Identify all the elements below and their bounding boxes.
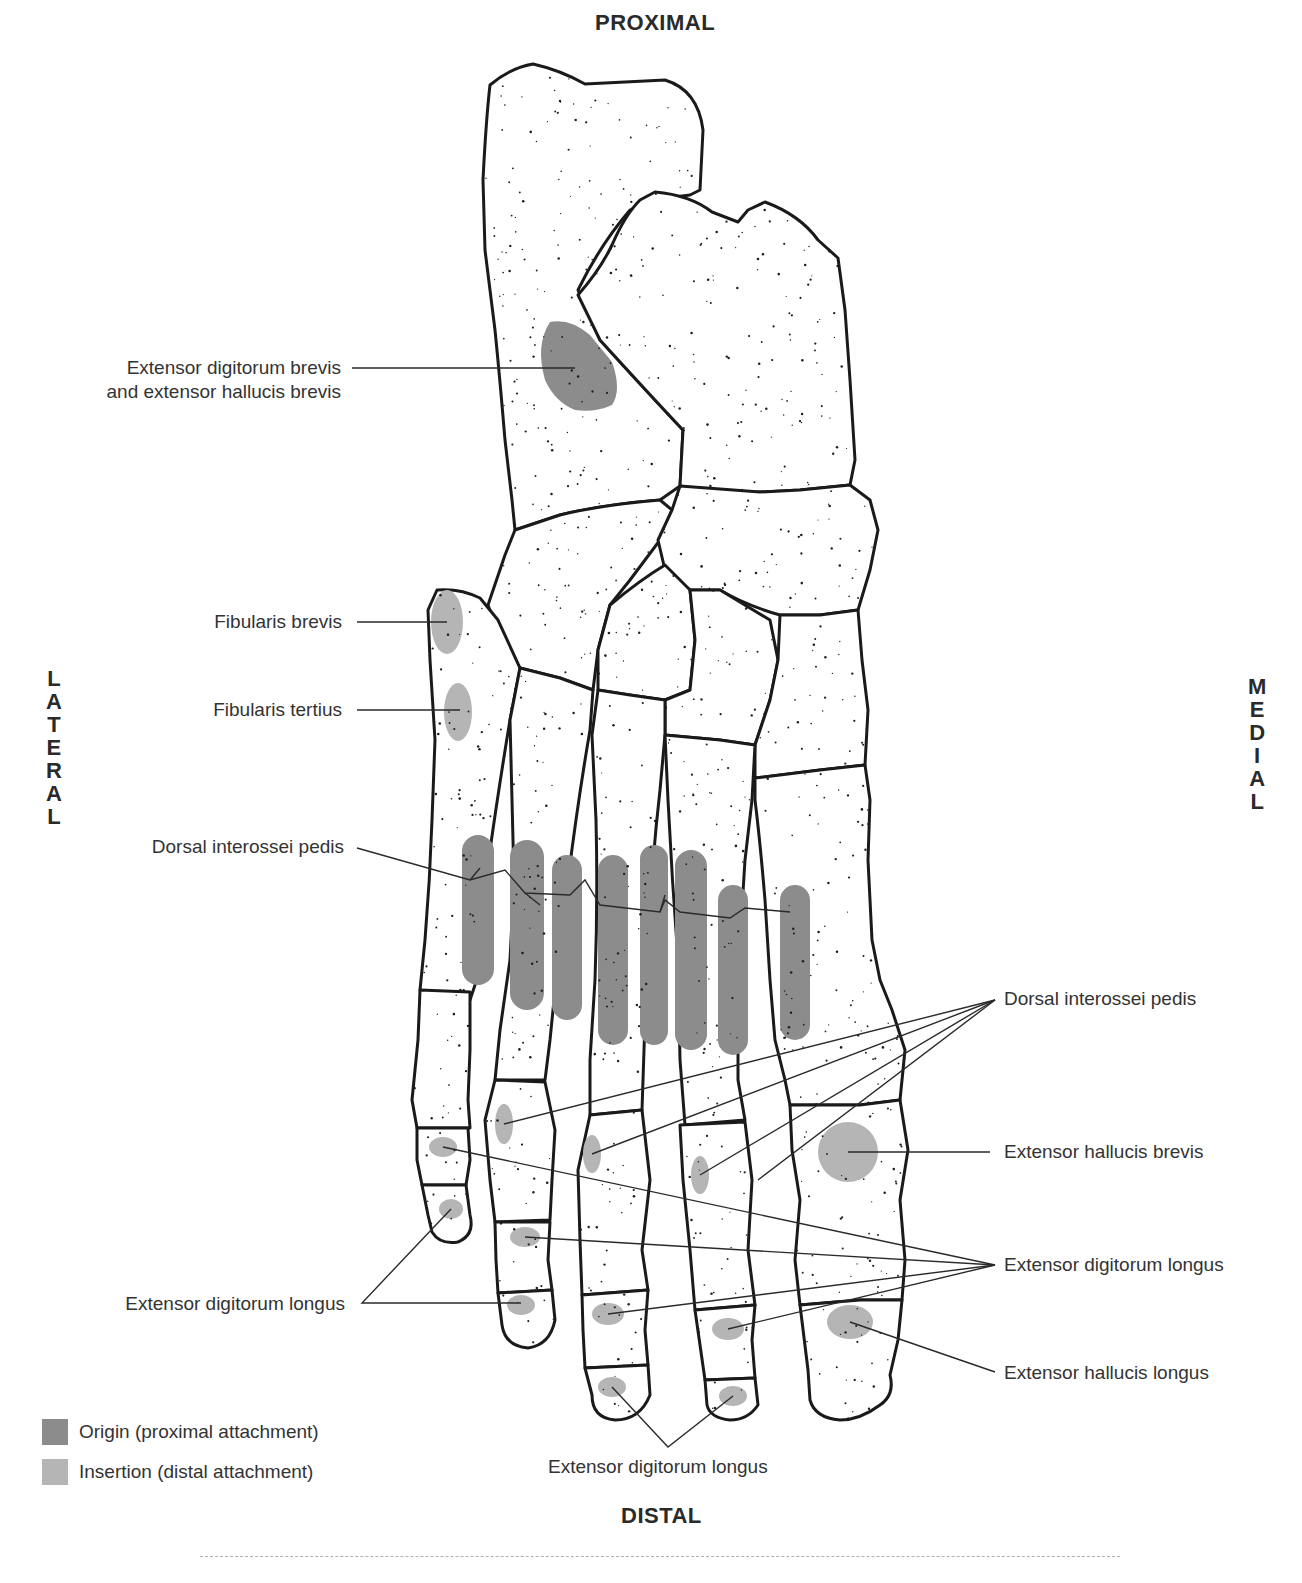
label-dorsal-interossei-left: Dorsal interossei pedis (152, 835, 344, 859)
label-edl-bottom: Extensor digitorum longus (548, 1455, 768, 1479)
toe-2-middle-phalanx (695, 1305, 755, 1380)
label-edl-right: Extensor digitorum longus (1004, 1253, 1224, 1277)
legend: Origin (proximal attachment) Insertion (… (42, 1412, 319, 1492)
tarsal-bones (483, 64, 878, 778)
dorsal-interosseous-origin-8 (780, 885, 810, 1040)
label-edb-ehb: Extensor digitorum brevis and extensor h… (107, 356, 341, 404)
dorsal-interosseous-origin-6 (675, 850, 707, 1050)
orientation-letter: L (47, 805, 60, 828)
orientation-letter: L (47, 667, 60, 690)
label-edb-ehb-line1: Extensor digitorum brevis (107, 356, 341, 380)
orientation-letter: M (1248, 675, 1266, 698)
orientation-letter: T (47, 713, 60, 736)
legend-label-insertion: Insertion (distal attachment) (79, 1461, 313, 1483)
label-dorsal-interossei-right: Dorsal interossei pedis (1004, 987, 1196, 1011)
orientation-letter: D (1249, 721, 1265, 744)
orientation-distal: DISTAL (621, 1503, 702, 1529)
label-edb-ehb-line2: and extensor hallucis brevis (107, 380, 341, 404)
orientation-letter: E (47, 736, 62, 759)
legend-item-origin: Origin (proximal attachment) (42, 1412, 319, 1452)
legend-item-insertion: Insertion (distal attachment) (42, 1452, 319, 1492)
dorsal-interosseous-origin-4 (598, 855, 628, 1045)
dorsal-interosseous-origin-1 (462, 835, 494, 985)
label-fibularis-tertius: Fibularis tertius (213, 698, 342, 722)
toe-4-proximal-phalanx (485, 1080, 555, 1222)
foot-skeleton-dorsal-view (0, 0, 1302, 1583)
orientation-letter: R (46, 759, 62, 782)
dorsal-interosseous-origin-5 (640, 845, 668, 1045)
label-edl-left: Extensor digitorum longus (125, 1292, 345, 1316)
orientation-letter: L (1250, 790, 1263, 813)
orientation-letter: A (1249, 767, 1265, 790)
edl-insertion-4-distal (507, 1295, 535, 1315)
insertion-swatch (42, 1459, 68, 1485)
label-fibularis-brevis: Fibularis brevis (214, 610, 342, 634)
dorsal-interosseous-origin-3 (552, 855, 582, 1020)
origin-swatch (42, 1419, 68, 1445)
orientation-lateral: LATERAL (46, 667, 62, 828)
dorsal-interosseous-origin-2 (510, 840, 544, 1010)
toe-3-middle-phalanx (582, 1290, 648, 1368)
orientation-letter: E (1250, 698, 1265, 721)
label-extensor-hallucis-longus: Extensor hallucis longus (1004, 1361, 1209, 1385)
label-extensor-hallucis-brevis: Extensor hallucis brevis (1004, 1140, 1204, 1164)
orientation-letter: A (46, 782, 62, 805)
toe-2-proximal-phalanx (680, 1122, 755, 1310)
dorsal-interosseous-origin-7 (718, 885, 748, 1055)
metatarsal-1 (755, 765, 905, 1105)
orientation-letter: A (46, 690, 62, 713)
orientation-proximal: PROXIMAL (595, 10, 715, 36)
legend-label-origin: Origin (proximal attachment) (79, 1421, 319, 1443)
orientation-letter: I (1254, 744, 1260, 767)
toe-5-proximal-phalanx (412, 990, 470, 1128)
page-divider (200, 1556, 1120, 1557)
orientation-medial: MEDIAL (1248, 675, 1266, 813)
